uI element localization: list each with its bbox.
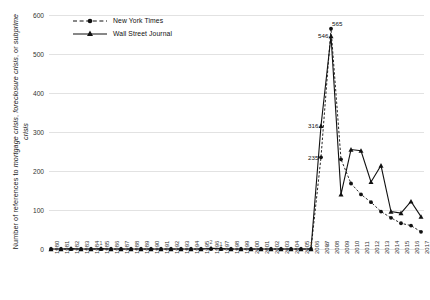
legend: New York Times Wall Street Journal	[72, 14, 172, 40]
data-label-1: 1	[100, 240, 103, 246]
x-tick-label-2009: 2009	[344, 241, 350, 254]
x-tick-label-2010: 2010	[354, 241, 360, 254]
x-tick-label-2015: 2015	[404, 241, 410, 254]
x-tick-label-1982: 1982	[74, 241, 80, 254]
x-tick-label-2004: 2004	[294, 241, 300, 254]
data-label-316: 316	[308, 122, 318, 129]
data-label-2: 2	[210, 239, 213, 245]
data-label-235: 235	[308, 154, 318, 161]
x-tick-label-1992: 1992	[174, 241, 180, 254]
legend-item-wall-street-journal[interactable]: Wall Street Journal	[72, 27, 172, 40]
x-tick-label-1986: 1986	[114, 241, 120, 254]
data-label-1: 1	[310, 241, 313, 247]
x-tick-label-2001: 2001	[264, 241, 270, 254]
x-tick-label-1980: 1980	[54, 241, 60, 254]
x-tick-label-2017: 2017	[424, 241, 430, 254]
x-tick-label-2012: 2012	[374, 241, 380, 254]
data-label-565: 565	[332, 20, 342, 27]
x-tick-label-1999: 1999	[244, 241, 250, 254]
x-tick-label-1983: 1983	[84, 241, 90, 254]
x-tick-label-2013: 2013	[384, 241, 390, 254]
x-tick-label-2002: 2002	[274, 241, 280, 254]
x-tick-label-1988: 1988	[134, 241, 140, 254]
legend-marker-solid-triangle-icon	[72, 29, 108, 39]
x-tick-label-2000: 2000	[254, 241, 260, 254]
x-tick-label-1993: 1993	[184, 241, 190, 254]
x-tick-label-1981: 1981	[64, 241, 70, 254]
x-tick-label-1985: 1985	[104, 241, 110, 254]
x-tick-label-1994: 1994	[194, 241, 200, 254]
x-tick-label-2011: 2011	[364, 241, 370, 254]
x-tick-label-2008: 2008	[334, 241, 340, 254]
x-tick-label-2006: 2006	[314, 241, 320, 254]
data-label-0: 0	[326, 241, 329, 247]
x-tick-label-1991: 1991	[164, 241, 170, 254]
x-tick-label-1997: 1997	[224, 241, 230, 254]
x-tick-label-1987: 1987	[124, 241, 130, 254]
legend-item-new-york-times[interactable]: New York Times	[72, 14, 172, 27]
legend-label-wall-street-journal: Wall Street Journal	[113, 30, 172, 37]
data-label-546: 546	[318, 32, 328, 39]
x-tick-label-2003: 2003	[284, 241, 290, 254]
legend-label-new-york-times: New York Times	[113, 17, 163, 24]
x-tick-label-1998: 1998	[234, 241, 240, 254]
x-tick-label-2014: 2014	[394, 241, 400, 254]
x-tick-label-1990: 1990	[154, 241, 160, 254]
x-tick-label-1989: 1989	[144, 241, 150, 254]
legend-marker-dashed-circle-icon	[72, 16, 108, 26]
data-label-1: 1	[220, 241, 223, 247]
x-tick-label-2016: 2016	[414, 241, 420, 254]
